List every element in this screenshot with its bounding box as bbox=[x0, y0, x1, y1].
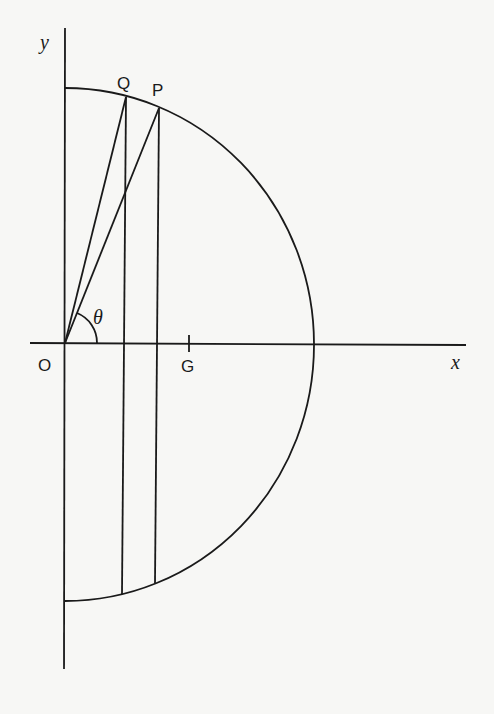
angle-theta-label: θ bbox=[93, 306, 103, 328]
y-axis-label: y bbox=[38, 31, 49, 54]
point-q-label: Q bbox=[117, 74, 130, 93]
point-p-label: P bbox=[152, 81, 163, 100]
semi-ellipse-diagram: y x O Q P G θ bbox=[0, 0, 494, 714]
vertical-chord-p bbox=[155, 108, 159, 583]
x-axis-label: x bbox=[450, 351, 460, 373]
x-axis bbox=[30, 343, 466, 345]
vertical-chord-q bbox=[122, 97, 126, 594]
y-axis bbox=[64, 28, 65, 669]
origin-label: O bbox=[38, 356, 51, 375]
radius-op bbox=[65, 108, 159, 343]
point-g-label: G bbox=[181, 357, 194, 376]
